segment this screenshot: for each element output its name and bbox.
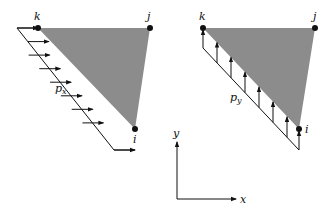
right-label-i: i (305, 123, 309, 136)
left-node-j (147, 25, 153, 31)
left-node-k (35, 25, 41, 31)
right-node-i (296, 126, 302, 132)
right-element: k j i py (199, 10, 318, 150)
left-label-i: i (133, 133, 137, 146)
coordinate-axes (177, 142, 236, 199)
left-label-j: j (144, 10, 151, 23)
left-label-k: k (34, 10, 41, 23)
right-node-j (312, 25, 318, 31)
left-triangle (38, 28, 150, 129)
left-node-i (132, 126, 138, 132)
diagram-canvas: k j i px k j i py y x (0, 0, 328, 213)
diagram-svg: k j i px k j i py y x (0, 0, 328, 213)
right-label-k: k (199, 10, 206, 23)
right-load-label: py (230, 91, 242, 105)
y-axis-label: y (172, 127, 180, 140)
right-triangle (203, 28, 315, 129)
left-element: k j i px (17, 10, 153, 150)
left-load-label: px (55, 82, 67, 96)
right-node-k (200, 25, 206, 31)
x-axis-label: x (240, 193, 247, 206)
right-label-j: j (310, 10, 317, 23)
